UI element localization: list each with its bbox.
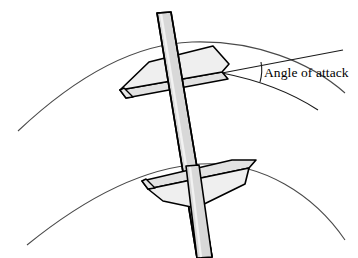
figure-container: Angle of attack bbox=[0, 0, 358, 258]
angle-of-attack-diagram bbox=[0, 0, 358, 258]
angle-of-attack-label: Angle of attack bbox=[264, 65, 349, 81]
